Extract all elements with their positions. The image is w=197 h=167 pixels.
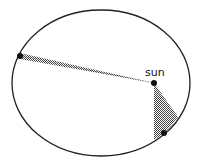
planet-perihelion-dot (161, 130, 167, 136)
planet-aphelion-dot (17, 53, 23, 59)
sun-label: sun (145, 66, 165, 79)
radius-line-far (20, 56, 154, 83)
sun-dot (151, 80, 157, 86)
kepler-second-law-diagram: sun (0, 0, 197, 167)
swept-area-far (20, 53, 154, 83)
